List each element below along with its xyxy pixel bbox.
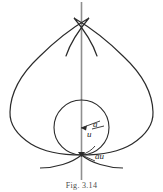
arc-length-label: au — [95, 152, 104, 161]
cardioid-bottom-left-cusp — [40, 155, 82, 168]
radius-denominator-label: u — [87, 130, 92, 139]
cardioid-right-branch — [74, 18, 153, 155]
figure-container: a u au Fig. 3.14 — [0, 0, 163, 192]
radius-numerator-label: a — [93, 120, 98, 129]
cardioid-diagram-svg — [0, 0, 163, 192]
figure-caption: Fig. 3.14 — [0, 181, 163, 192]
cardioid-left-branch — [10, 18, 89, 155]
